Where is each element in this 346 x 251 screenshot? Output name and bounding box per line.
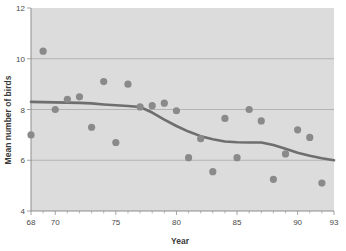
data-point [124,81,131,88]
y-tick-label: 4 [21,207,26,216]
data-point [149,102,156,109]
x-tick-label: 90 [293,218,302,227]
x-tick-label: 70 [51,218,60,227]
data-point [173,107,180,114]
data-point [282,150,289,157]
data-point [270,176,277,183]
chart-figure: 4681012 68707580859093 Mean number of bi… [0,0,346,251]
data-point [40,48,47,55]
x-axis-title: Year [171,236,190,246]
y-tick-label: 12 [16,4,25,13]
data-point [100,78,107,85]
data-point [294,126,301,133]
data-point [136,103,143,110]
data-point [52,106,59,113]
x-tick-labels-group: 68707580859093 [27,218,339,227]
data-point [76,93,83,100]
y-tick-labels-group: 4681012 [16,4,25,216]
x-tick-label: 75 [111,218,120,227]
data-point [197,135,204,142]
y-axis-title: Mean number of birds [3,75,13,164]
y-tick-label: 6 [21,156,26,165]
data-point [209,168,216,175]
scatter-plot: 4681012 68707580859093 Mean number of bi… [0,0,346,251]
data-point [88,124,95,131]
data-point [64,96,71,103]
y-tick-label: 10 [16,55,25,64]
x-tick-label: 68 [27,218,36,227]
data-point [112,139,119,146]
data-point [306,134,313,141]
data-point [221,115,228,122]
data-point [258,117,265,124]
data-point [246,106,253,113]
y-tick-label: 8 [21,106,26,115]
data-point [233,154,240,161]
data-point [27,131,34,138]
data-point [185,154,192,161]
x-tick-label: 80 [172,218,181,227]
data-point [161,100,168,107]
x-tick-label: 93 [330,218,339,227]
data-point [318,179,325,186]
x-tick-label: 85 [233,218,242,227]
